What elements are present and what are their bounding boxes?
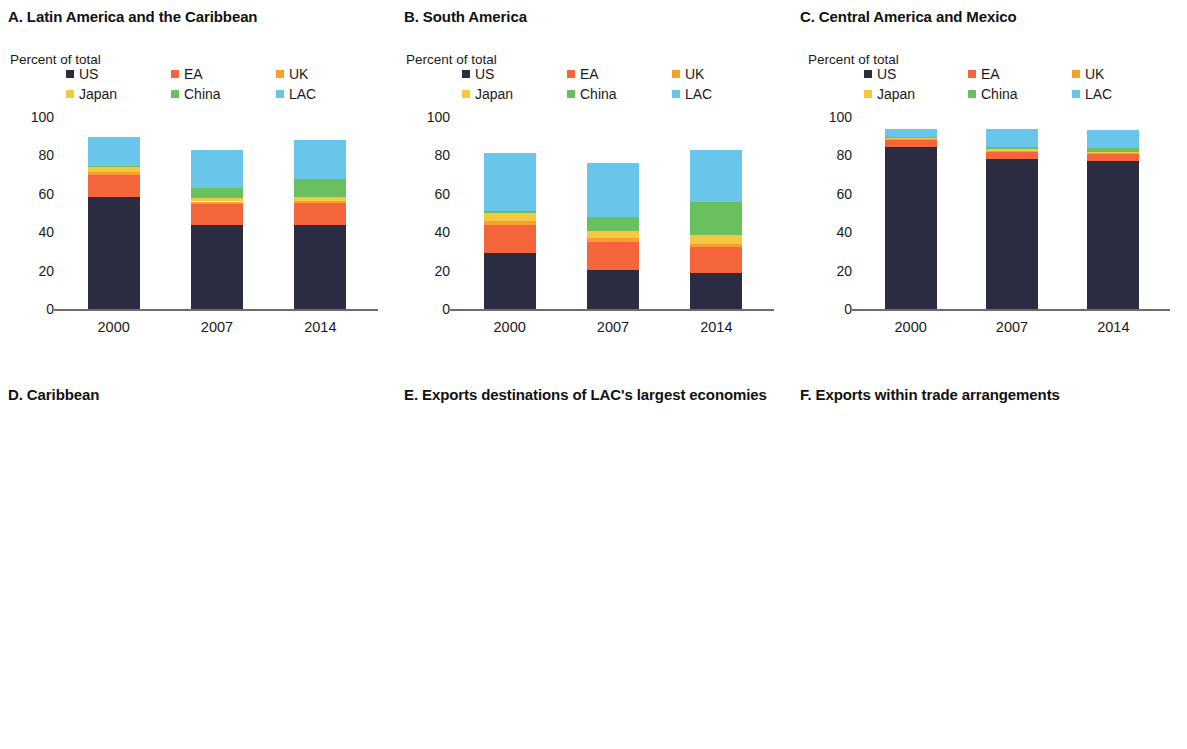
legend-item-china: China [968, 86, 1072, 102]
bar-segment [587, 163, 639, 217]
bar-segment [885, 139, 937, 140]
bar-segment [986, 147, 1038, 149]
chart-legend: USEAUKJapanChinaLAC [66, 66, 316, 102]
legend-item-us: US [462, 66, 567, 82]
x-axis-line [450, 309, 774, 311]
y-axis-tick: 20 [812, 263, 852, 279]
legend-label: EA [580, 66, 599, 82]
legend-item-lac: LAC [1072, 86, 1112, 102]
legend-swatch-icon [567, 90, 575, 98]
bar-segment [191, 188, 243, 198]
legend-item-uk: UK [276, 66, 316, 82]
bar-segment [885, 147, 937, 309]
y-axis-tick: 40 [410, 224, 450, 240]
legend-label: US [79, 66, 98, 82]
bar-segment [294, 197, 346, 201]
x-axis-label: 2014 [304, 319, 336, 335]
legend-swatch-icon [171, 90, 179, 98]
legend-item-us: US [66, 66, 171, 82]
bar-segment [191, 225, 243, 309]
y-axis-tick: 40 [812, 224, 852, 240]
stacked-bar [484, 153, 536, 309]
legend-swatch-icon [968, 70, 976, 78]
panel-title: E. Exports destinations of LAC's largest… [404, 386, 774, 405]
bar-segment [88, 166, 140, 167]
legend-swatch-icon [672, 90, 680, 98]
y-axis-tick: 20 [410, 263, 450, 279]
bar-segment [1087, 153, 1139, 154]
y-axis-tick: 0 [812, 301, 852, 317]
y-axis-tick: 20 [14, 263, 54, 279]
legend-item-japan: Japan [864, 86, 968, 102]
stacked-bar [191, 150, 243, 309]
legend-swatch-icon [462, 70, 470, 78]
legend-item-uk: UK [672, 66, 712, 82]
bar-segment [294, 203, 346, 224]
y-axis-tick: 0 [410, 301, 450, 317]
legend-swatch-icon [968, 90, 976, 98]
y-axis-tick: 80 [812, 147, 852, 163]
legend-item-japan: Japan [462, 86, 567, 102]
y-axis-tick: 80 [410, 147, 450, 163]
legend-item-lac: LAC [276, 86, 316, 102]
bar-segment [484, 153, 536, 212]
x-axis-label: 2007 [996, 319, 1028, 335]
legend-label: Japan [79, 86, 117, 102]
x-axis-line [852, 309, 1170, 311]
bar-segment [986, 159, 1038, 309]
y-axis-tick: 40 [14, 224, 54, 240]
legend-item-ea: EA [567, 66, 672, 82]
panel-title: C. Central America and Mexico [800, 8, 1172, 27]
bar-segment [191, 150, 243, 188]
y-axis-tick: 100 [410, 109, 450, 125]
plot-area: 020406080100200020072014 [458, 117, 768, 309]
x-axis-line [54, 309, 378, 311]
legend-label: China [580, 86, 617, 102]
y-axis-unit-label: Percent of total [10, 52, 101, 67]
y-axis-unit-label: Percent of total [808, 52, 899, 67]
bar-segment [885, 140, 937, 147]
bar-segment [885, 137, 937, 138]
panel-d: D. CaribbeanPercent of totalUSEAUKJapanC… [0, 382, 390, 749]
legend-label: Japan [475, 86, 513, 102]
bar-segment [885, 138, 937, 139]
panel-f: F. Exports within trade arrangementsPerc… [792, 382, 1184, 749]
bar-segment [88, 167, 140, 172]
legend-item-china: China [567, 86, 672, 102]
bar-segment [986, 151, 1038, 152]
bar-segment [294, 140, 346, 179]
bar-segment [587, 217, 639, 231]
bar-segment [690, 247, 742, 273]
y-axis-tick: 0 [14, 301, 54, 317]
legend-label: China [184, 86, 221, 102]
legend-swatch-icon [672, 70, 680, 78]
legend-label: Japan [877, 86, 915, 102]
y-axis-tick: 60 [812, 186, 852, 202]
bar-segment [1087, 152, 1139, 153]
plot-area: 020406080100200020072014 [860, 117, 1164, 309]
panel-a: A. Latin America and the CaribbeanPercen… [0, 4, 390, 382]
bar-segment [885, 129, 937, 138]
legend-swatch-icon [276, 70, 284, 78]
y-axis-tick: 100 [14, 109, 54, 125]
legend-item-us: US [864, 66, 968, 82]
stacked-bar [1087, 129, 1139, 309]
panel-e: E. Exports destinations of LAC's largest… [396, 382, 786, 749]
legend-swatch-icon [66, 90, 74, 98]
panel-title: A. Latin America and the Caribbean [8, 8, 378, 27]
bar-segment [88, 137, 140, 166]
panel-title: B. South America [404, 8, 774, 27]
bar-segment [191, 198, 243, 202]
legend-item-china: China [171, 86, 276, 102]
chart-legend: USEAUKJapanChinaLAC [462, 66, 712, 102]
bar-segment [690, 273, 742, 309]
bar-segment [587, 238, 639, 242]
bar-segment [88, 172, 140, 175]
bar-segment [191, 204, 243, 224]
bar-segment [484, 211, 536, 213]
legend-item-ea: EA [171, 66, 276, 82]
legend-label: China [981, 86, 1018, 102]
stacked-bar [690, 150, 742, 309]
stacked-bar [986, 129, 1038, 309]
legend-label: UK [685, 66, 704, 82]
